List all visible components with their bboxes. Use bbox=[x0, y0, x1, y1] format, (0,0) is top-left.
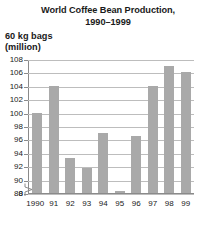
x-axis-tick-slot: 97 bbox=[145, 199, 162, 208]
bar-92 bbox=[65, 158, 75, 194]
x-axis-tick-label-97: 97 bbox=[145, 199, 162, 208]
bar-slot bbox=[62, 60, 79, 193]
axis-break-icon bbox=[23, 183, 35, 197]
y-axis-tick bbox=[24, 140, 28, 141]
y-axis-tick bbox=[24, 154, 28, 155]
x-axis-tick-label-93: 93 bbox=[79, 199, 96, 208]
y-axis-tick-label: 108 bbox=[0, 56, 23, 64]
y-axis-tick-label: 98 bbox=[0, 123, 23, 131]
y-axis-label-line-2: (million) bbox=[5, 42, 97, 53]
x-axis-tick-label-1990: 1990 bbox=[25, 199, 46, 208]
bar-97 bbox=[148, 86, 158, 193]
x-axis-tick-slot: 91 bbox=[46, 199, 63, 208]
y-axis-label-line-1: 60 kg bags bbox=[5, 31, 97, 42]
x-axis-tick-slot: 93 bbox=[79, 199, 96, 208]
chart-title-line-2: 1990–1999 bbox=[22, 17, 194, 29]
x-axis-tick-label-98: 98 bbox=[161, 199, 178, 208]
x-axis-tick-label-91: 91 bbox=[46, 199, 63, 208]
bar-98 bbox=[164, 66, 174, 193]
x-axis-tick-slot: 92 bbox=[62, 199, 79, 208]
bar-95 bbox=[115, 191, 125, 193]
bar-slot bbox=[79, 60, 96, 193]
y-axis-tick-label: 106 bbox=[0, 69, 23, 77]
y-axis-tick-label: 96 bbox=[0, 136, 23, 144]
x-axis-tick-slot: 96 bbox=[128, 199, 145, 208]
x-axis-labels: 1990919293949596979899 bbox=[29, 199, 194, 208]
x-axis-tick-slot: 1990 bbox=[29, 199, 46, 208]
chart-title: World Coffee Bean Production, 1990–1999 bbox=[22, 5, 194, 28]
y-axis-tick-label: 104 bbox=[0, 83, 23, 91]
y-axis-tick-label: 0 bbox=[0, 190, 23, 198]
x-axis-tick-slot: 99 bbox=[178, 199, 195, 208]
y-axis-tick bbox=[24, 73, 28, 74]
x-axis-tick-label-99: 99 bbox=[178, 199, 195, 208]
bar-slot bbox=[178, 60, 195, 193]
y-axis-tick bbox=[24, 87, 28, 88]
bar-94 bbox=[98, 133, 108, 193]
x-axis-tick-slot: 98 bbox=[161, 199, 178, 208]
y-axis-tick bbox=[24, 60, 28, 61]
chart-title-line-1: World Coffee Bean Production, bbox=[22, 5, 194, 17]
bar-96 bbox=[131, 136, 141, 193]
x-axis-tick-label-96: 96 bbox=[128, 199, 145, 208]
y-axis-tick-label: 92 bbox=[0, 163, 23, 171]
bar-91 bbox=[49, 86, 59, 193]
plot-area: 1081061041021009896949290880 bbox=[28, 60, 194, 194]
x-axis-tick-slot: 95 bbox=[112, 199, 129, 208]
bar-slot bbox=[95, 60, 112, 193]
y-axis-tick-label: 102 bbox=[0, 96, 23, 104]
y-axis-tick bbox=[24, 181, 28, 182]
y-axis-tick bbox=[24, 114, 28, 115]
y-axis-label: 60 kg bags (million) bbox=[5, 31, 97, 53]
bar-slot bbox=[161, 60, 178, 193]
bar-slot bbox=[145, 60, 162, 193]
bar-slot bbox=[128, 60, 145, 193]
y-axis-tick bbox=[24, 167, 28, 168]
gridline bbox=[28, 194, 194, 195]
x-axis-tick-label-92: 92 bbox=[62, 199, 79, 208]
y-axis-tick-label: 94 bbox=[0, 150, 23, 158]
y-axis-tick bbox=[24, 100, 28, 101]
x-axis-tick-slot: 94 bbox=[95, 199, 112, 208]
y-axis-tick bbox=[24, 127, 28, 128]
x-axis-tick-label-95: 95 bbox=[112, 199, 129, 208]
chart-figure: World Coffee Bean Production, 1990–1999 … bbox=[0, 0, 199, 230]
bar-slot bbox=[29, 60, 46, 193]
bar-slot bbox=[46, 60, 63, 193]
y-axis-tick-label: 90 bbox=[0, 177, 23, 185]
x-axis-tick-label-94: 94 bbox=[95, 199, 112, 208]
bar-series bbox=[29, 60, 194, 193]
bar-93 bbox=[82, 168, 92, 193]
bar-slot bbox=[112, 60, 129, 193]
bar-99 bbox=[181, 72, 191, 193]
y-axis-tick-label: 100 bbox=[0, 110, 23, 118]
bar-1990 bbox=[32, 113, 42, 193]
